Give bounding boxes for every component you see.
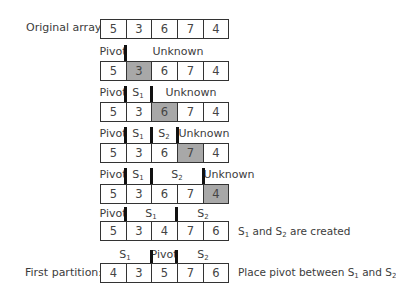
array-cell: 5	[100, 19, 127, 39]
array-cell: 7	[177, 19, 204, 39]
array-cell: 7	[177, 263, 204, 283]
array-cell: 4	[203, 19, 229, 39]
array-cell: 7	[177, 221, 204, 241]
array-cell: 4	[203, 102, 229, 122]
array-cell: 3	[126, 221, 152, 241]
array-cell: 5	[151, 263, 178, 283]
array-cell: 6	[151, 184, 178, 204]
array-row-7: 4 3 5 7 6	[100, 263, 229, 283]
segment-label-s1: S1	[132, 127, 143, 141]
segment-label-s1: S1	[119, 248, 130, 262]
array-cell: 3	[126, 102, 152, 122]
segment-label-s1: S1	[132, 168, 143, 182]
segment-label-unknown: Unknown	[178, 127, 229, 140]
array-cell: 5	[100, 61, 127, 81]
array-cell: 3	[126, 184, 152, 204]
original-array-label: Original array:	[26, 21, 104, 34]
array-cell: 6	[151, 143, 178, 163]
array-cell: 5	[100, 143, 127, 163]
array-cell: 6	[203, 221, 229, 241]
array-cell: 4	[203, 61, 229, 81]
array-cell: 5	[100, 221, 127, 241]
segment-label-pivot: Pivot	[99, 127, 126, 140]
array-row-5: 5 3 6 7 4	[100, 184, 229, 204]
segment-label-s1: S1	[132, 86, 143, 100]
array-cell: 6	[151, 19, 178, 39]
array-cell: 3	[126, 263, 152, 283]
array-row-2: 5 3 6 7 4	[100, 61, 229, 81]
segment-label-s2: S2	[197, 207, 208, 221]
array-cell: 5	[100, 102, 127, 122]
caption-subarrays-created: S1 and S2 are created	[238, 225, 350, 239]
array-cell: 4	[203, 143, 229, 163]
array-cell: 4	[151, 221, 178, 241]
array-cell: 3	[126, 19, 152, 39]
segment-label-unknown: Unknown	[165, 86, 216, 99]
array-row-6: 5 3 4 7 6	[100, 221, 229, 241]
array-cell-current: 3	[126, 61, 152, 81]
array-row-4: 5 3 6 7 4	[100, 143, 229, 163]
segment-label-s2: S2	[197, 248, 208, 262]
array-cell-current: 7	[177, 143, 204, 163]
array-cell-current: 6	[151, 102, 178, 122]
segment-label-pivot: Pivot	[99, 45, 126, 58]
array-row-3: 5 3 6 7 4	[100, 102, 229, 122]
segment-label-pivot: Pivot	[99, 207, 126, 220]
segment-label-pivot: Pivot	[99, 168, 126, 181]
array-cell: 6	[203, 263, 229, 283]
array-cell: 7	[177, 61, 204, 81]
array-cell: 7	[177, 102, 204, 122]
first-partition-label: First partition:	[25, 266, 102, 279]
segment-label-pivot: Pivot	[99, 86, 126, 99]
segment-label-unknown: Unknown	[203, 168, 254, 181]
array-cell-current: 4	[203, 184, 229, 204]
array-cell: 5	[100, 184, 127, 204]
array-row-1: 5 3 6 7 4	[100, 19, 229, 39]
array-cell: 3	[126, 143, 152, 163]
array-cell: 6	[151, 61, 178, 81]
array-cell: 4	[100, 263, 127, 283]
segment-label-s2: S2	[171, 168, 182, 182]
array-cell: 7	[177, 184, 204, 204]
segment-label-s2: S2	[158, 127, 169, 141]
caption-place-pivot: Place pivot between S1 and S2	[238, 266, 396, 280]
segment-label-pivot: Pivot	[150, 248, 177, 261]
segment-label-s1: S1	[145, 207, 156, 221]
segment-label-unknown: Unknown	[152, 45, 203, 58]
